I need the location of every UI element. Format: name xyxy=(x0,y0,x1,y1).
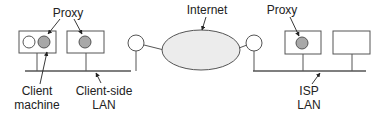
proxy-icon xyxy=(296,37,308,49)
isp-lan-arrow xyxy=(312,73,320,84)
internet-label: Internet xyxy=(187,3,228,17)
proxy-label-left: Proxy xyxy=(53,6,84,20)
proxy-label-right: Proxy xyxy=(267,3,298,17)
client-machine-arrow xyxy=(40,52,47,84)
isp-lan-label-1: ISP xyxy=(299,84,318,98)
client-side-lan-label-1: Client-side xyxy=(76,84,133,98)
proxy-icon xyxy=(38,36,50,48)
isp-proxy-box xyxy=(285,31,321,71)
internet-arrow xyxy=(202,17,206,30)
client-side-lan-arrow xyxy=(96,73,101,83)
router-icon xyxy=(246,35,262,51)
client-machine-box xyxy=(19,31,56,71)
client-process-icon xyxy=(23,36,35,48)
client-side-lan-label-2: LAN xyxy=(92,98,115,112)
client-machine-label-2: machine xyxy=(14,98,60,112)
client-machine-label-1: Client xyxy=(22,84,53,98)
isp-lan-label-2: LAN xyxy=(297,98,320,112)
internet-cloud xyxy=(162,30,240,70)
right-router xyxy=(239,35,262,71)
proxy-placement-diagram: Proxy Internet Proxy Client machine Clie… xyxy=(0,0,384,114)
router-icon xyxy=(128,35,144,51)
isp-host-box xyxy=(333,31,370,71)
left-router xyxy=(128,35,164,71)
proxy-icon xyxy=(79,36,91,48)
client-side-proxy-box xyxy=(67,31,104,71)
